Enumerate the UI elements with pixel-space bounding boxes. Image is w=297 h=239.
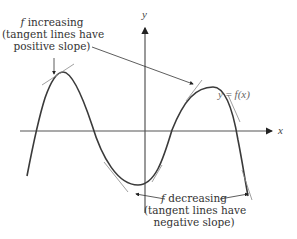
annotation-increasing-title: f increasing	[2, 16, 102, 28]
annotation-decreasing-line3: negative slope)	[144, 216, 244, 228]
function-label: y = f(x)	[218, 88, 250, 100]
annotation-decreasing-title: f decreasing	[144, 192, 244, 204]
annotation-decreasing-line2: (tangent lines have	[144, 204, 244, 216]
function-label-eq: =	[223, 88, 235, 100]
x-axis-label: x	[278, 124, 283, 136]
annotation-increasing-line3: positive slope)	[2, 40, 102, 52]
tangent-line-increasing-3	[152, 165, 162, 182]
annotation-increasing: f increasing (tangent lines have positiv…	[2, 16, 102, 52]
annotation-decreasing-line1: decreasing	[165, 192, 227, 204]
function-label-rhs: f(x)	[235, 88, 250, 100]
y-axis-label: y	[142, 8, 147, 20]
tangent-line-decreasing-1	[104, 162, 128, 192]
annotation-increasing-line2: (tangent lines have	[2, 28, 102, 40]
function-curve	[27, 72, 248, 196]
annotation-increasing-line1: increasing	[24, 16, 83, 28]
pointer-arrow-increasing-2	[92, 47, 193, 84]
annotation-decreasing: f decreasing (tangent lines have negativ…	[144, 192, 244, 228]
